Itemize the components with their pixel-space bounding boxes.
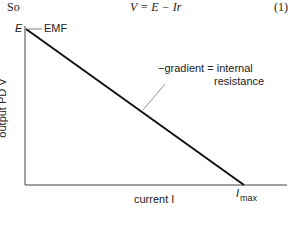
- emf-label: EMF: [44, 22, 67, 34]
- imax-i: I: [236, 187, 239, 199]
- gradient-label-2: resistance: [214, 75, 264, 87]
- y-axis-label: output PD V: [0, 78, 8, 137]
- e-label: E: [15, 22, 22, 34]
- gradient-label-1: −gradient = internal: [158, 62, 253, 74]
- imax-sub: max: [240, 193, 257, 203]
- x-axis-label: current I: [134, 193, 174, 205]
- imax-label: Imax: [236, 187, 257, 199]
